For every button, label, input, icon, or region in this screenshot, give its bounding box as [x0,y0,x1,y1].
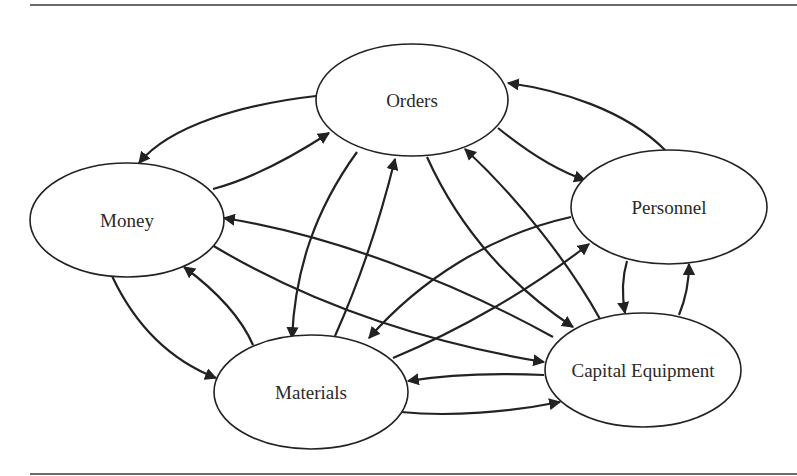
orders-label: Orders [386,90,438,111]
edge-materials-to-money [184,267,253,345]
edge-personnel-to-capital-equipment [623,261,627,313]
flow-diagram: Orders Money Personnel Materials Capital… [0,0,797,476]
edge-orders-to-money [139,96,316,163]
nodes-layer: Orders Money Personnel Materials Capital… [30,44,767,449]
diagram-canvas: Orders Money Personnel Materials Capital… [0,0,797,476]
personnel-label: Personnel [632,197,707,218]
edge-capital-equipment-to-materials [408,374,544,381]
node-orders: Orders [316,44,508,156]
materials-label: Materials [275,382,347,403]
money-label: Money [100,210,154,231]
edge-personnel-to-orders [508,83,665,150]
edge-capital-equipment-to-personnel [679,264,689,315]
edge-capital-equipment-to-orders [465,149,600,319]
capital-equipment-label: Capital Equipment [571,360,715,381]
node-money: Money [30,163,224,277]
edge-orders-to-personnel [498,128,585,180]
edge-money-to-materials [112,276,216,378]
node-materials: Materials [214,335,408,449]
node-capital-equipment: Capital Equipment [545,313,741,427]
edge-money-to-orders [213,133,329,189]
node-personnel: Personnel [571,150,767,264]
edge-materials-to-capital-equipment [401,402,560,414]
